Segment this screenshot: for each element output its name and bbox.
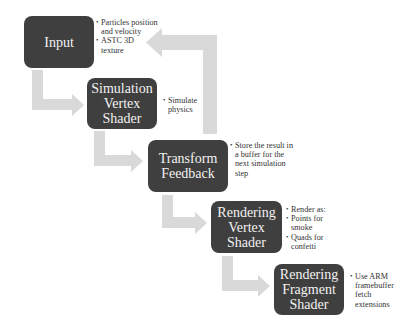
note-item: ASTC 3D texture (96, 36, 158, 54)
note-item: Simulate physics (163, 96, 203, 114)
arrow-transform-to-rendering-vertex (162, 195, 207, 234)
note-item: Render as: (286, 205, 334, 214)
notes-transform-feedback: Store the result in a buffer for the nex… (230, 141, 296, 178)
note-item: Particles position and velocity (96, 18, 158, 36)
notes-input: Particles position and velocity ASTC 3D … (96, 18, 158, 55)
notes-rendering-vertex-shader: Render as: Points for smoke Quads for co… (286, 205, 334, 251)
arrow-simulation-to-transform (94, 131, 143, 172)
arrow-input-to-simulation (32, 70, 84, 116)
stage-transform-feedback: Transform Feedback (148, 140, 228, 192)
stage-rendering-fragment-shader: Rendering Fragment Shader (274, 264, 344, 315)
particle-pipeline-diagram: Input Particles position and velocity AS… (0, 0, 416, 332)
stage-simulation-vertex-shader: Simulation Vertex Shader (87, 78, 157, 129)
note-item: Quads for confetti (286, 233, 334, 251)
note-item: Points for smoke (286, 214, 334, 232)
stage-rendering-vertex-shader: Rendering Vertex Shader (211, 201, 282, 253)
stage-input: Input (24, 16, 94, 68)
arrow-rendering-vertex-to-fragment (222, 256, 270, 297)
note-item: Use ARM framebuffer fetch extensions (350, 272, 400, 309)
note-item: Store the result in a buffer for the nex… (230, 141, 296, 178)
notes-simulation-vertex-shader: Simulate physics (163, 96, 203, 114)
notes-rendering-fragment-shader: Use ARM framebuffer fetch extensions (350, 272, 400, 309)
